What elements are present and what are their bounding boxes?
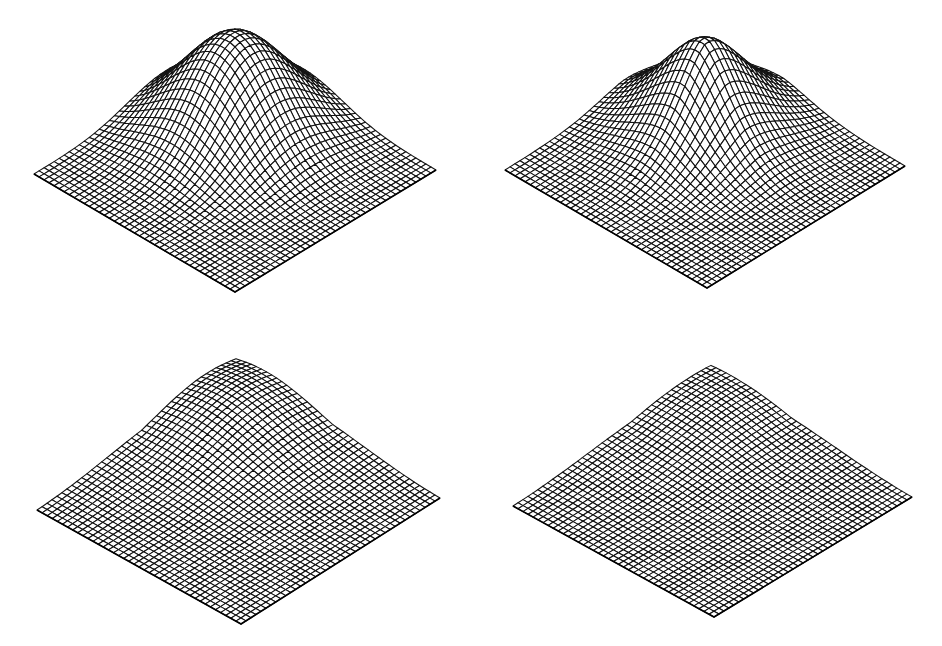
wireframe-surface bbox=[0, 0, 942, 646]
surface-plot-figure bbox=[0, 0, 942, 646]
surface-mesh bbox=[513, 365, 912, 617]
